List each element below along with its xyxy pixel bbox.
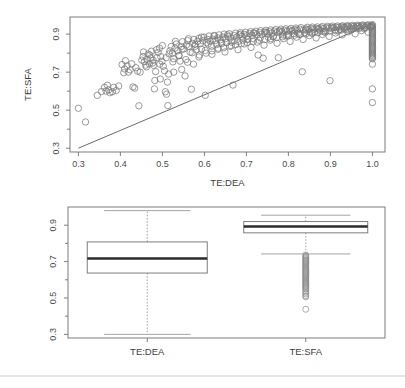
statistical-figure-panel: 0.30.40.50.60.70.80.91.00.30.50.70.9TE:D… <box>0 0 405 388</box>
scatter-point <box>163 91 169 97</box>
scatter-point <box>300 36 306 42</box>
scatter-point <box>165 102 171 108</box>
boxplot-category-label: TE:SFA <box>289 346 322 357</box>
scatter-point <box>151 86 157 92</box>
scatter-x-tick-label: 0.8 <box>282 159 295 169</box>
scatter-x-axis-label: TE:DEA <box>210 177 245 188</box>
scatter-x-tick-label: 0.3 <box>72 159 85 169</box>
scatter-point <box>161 68 167 74</box>
scatter-y-tick-label: 0.5 <box>51 104 61 117</box>
scatter-x-tick-label: 0.9 <box>324 159 337 169</box>
scatter-point <box>235 47 241 53</box>
scatter-point <box>190 61 196 67</box>
scatter-point <box>182 73 188 79</box>
scatter-point <box>131 85 137 91</box>
figure-svg: 0.30.40.50.60.70.80.91.00.30.50.70.9TE:D… <box>0 0 405 388</box>
scatter-point <box>299 69 305 75</box>
scatter-point <box>164 79 170 85</box>
scatter-point <box>188 86 194 92</box>
boxplot-y-tick-label: 0.9 <box>48 219 58 232</box>
scatter-x-tick-label: 0.6 <box>198 159 211 169</box>
scatter-point <box>275 54 281 60</box>
scatter-point <box>94 92 100 98</box>
scatter-point <box>136 103 142 109</box>
boxplot-category-label: TE:DEA <box>130 346 165 357</box>
scatter-point <box>82 119 88 125</box>
scatter-point <box>179 66 185 72</box>
scatter-point <box>248 44 254 50</box>
boxplot-y-tick-label: 0.5 <box>48 292 58 305</box>
scatter-y-tick-label: 0.3 <box>51 142 61 155</box>
scatter-x-tick-label: 1.0 <box>366 159 379 169</box>
boxplot-y-tick-label: 0.7 <box>48 255 58 268</box>
scatter-point <box>75 105 81 111</box>
identity-reference-line <box>78 24 372 149</box>
scatter-point <box>172 45 178 51</box>
scatter-y-axis-label: TE:SFA <box>22 67 33 100</box>
scatter-point <box>369 86 375 92</box>
boxplot-outlier <box>303 306 309 312</box>
scatter-point <box>260 55 266 61</box>
boxplot-y-tick-label: 0.3 <box>48 328 58 341</box>
scatter-x-tick-label: 0.7 <box>240 159 253 169</box>
scatter-point <box>369 99 375 105</box>
scatter-y-tick-label: 0.7 <box>51 66 61 79</box>
scatter-point <box>327 78 333 84</box>
scatter-y-tick-label: 0.9 <box>51 28 61 41</box>
scatter-point <box>222 49 228 55</box>
scatter-point <box>152 68 158 74</box>
scatter-x-tick-label: 0.4 <box>114 159 127 169</box>
scatter-x-tick-label: 0.5 <box>156 159 169 169</box>
